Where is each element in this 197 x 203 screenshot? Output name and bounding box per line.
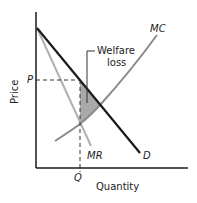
welfare-loss-diagram (0, 0, 197, 203)
welfare-loss-label-line2: loss (107, 58, 126, 68)
mc-label: MC (150, 24, 166, 34)
quantity-marker-label: Q (74, 173, 82, 183)
mr-label: MR (87, 151, 103, 161)
y-axis-label: Price (10, 80, 20, 104)
welfare-loss-label-line1: Welfare (97, 46, 135, 56)
x-axis-label: Quantity (96, 182, 139, 192)
demand-label: D (143, 151, 151, 161)
price-marker-label: P (27, 75, 33, 85)
